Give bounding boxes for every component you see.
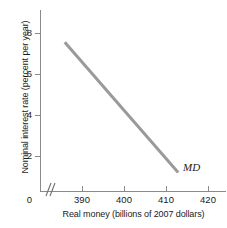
plot-area xyxy=(0,0,227,228)
money-demand-curve xyxy=(65,42,178,172)
money-demand-chart: Nominal interest rate (percent per year)… xyxy=(0,0,227,228)
curve-label-md: MD xyxy=(183,161,201,173)
x-axis-label: Real money (billions of 2007 dollars) xyxy=(40,209,227,219)
